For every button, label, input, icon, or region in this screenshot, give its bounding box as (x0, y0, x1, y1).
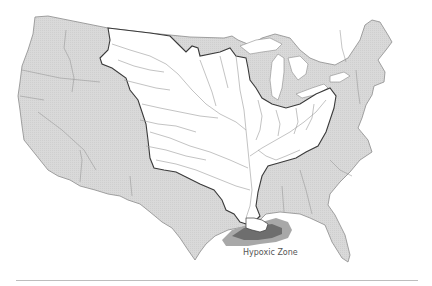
map-container: Hypoxic Zone (0, 0, 432, 286)
us-map (0, 0, 432, 286)
bottom-divider (16, 280, 418, 281)
hypoxic-zone-label: Hypoxic Zone (243, 248, 298, 257)
